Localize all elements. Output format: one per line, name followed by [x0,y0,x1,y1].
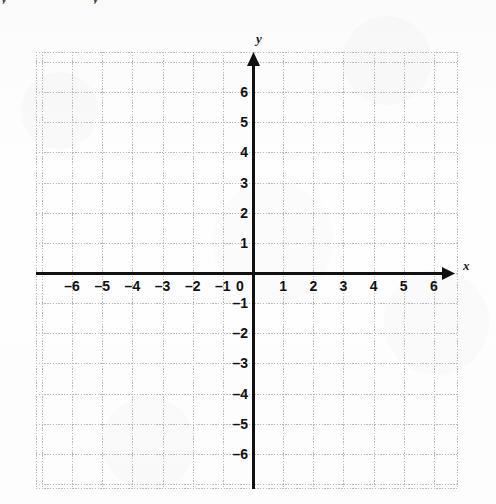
y-tick-label: 5 [240,115,248,129]
x-tick-label: –3 [155,279,171,293]
x-tick-label: 2 [309,279,317,293]
x-tick-label: –1 [215,279,231,293]
x-tick-label: 6 [430,279,438,293]
y-tick-label: –2 [232,326,248,340]
x-axis-label: x [463,258,470,274]
y-tick-label: –6 [232,447,248,461]
y-tick-label: 3 [240,176,248,190]
origin-tick-label: 0 [236,279,244,293]
y-tick-label: –3 [232,356,248,370]
x-tick-label: 4 [370,279,378,293]
x-tick-label: 5 [400,279,408,293]
y-tick-label: 4 [240,145,248,159]
x-tick-label: –4 [125,279,141,293]
x-tick-label: 1 [279,279,287,293]
x-tick-label: 3 [340,279,348,293]
x-tick-label: –5 [94,279,110,293]
y-tick-label: –5 [232,417,248,431]
coordinate-plane: x y –6–5–4–3–2–1123456 654321–1–2–3–4–5–… [0,0,496,504]
x-tick-label: –6 [64,279,80,293]
x-tick-label: –2 [185,279,201,293]
y-tick-label: 1 [240,236,248,250]
y-tick-label: –1 [232,296,248,310]
y-tick-label: –4 [232,387,248,401]
y-tick-label: 2 [240,206,248,220]
y-axis-label: y [256,31,262,47]
y-tick-label: 6 [240,85,248,99]
